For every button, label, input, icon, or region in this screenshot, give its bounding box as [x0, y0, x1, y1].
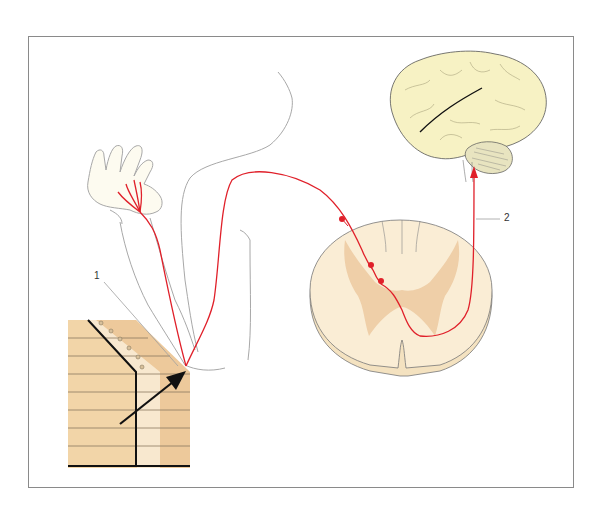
surface-block [68, 320, 190, 468]
brain [390, 51, 546, 182]
body-outline [120, 72, 292, 370]
hand-outline [88, 145, 162, 224]
illustration [0, 0, 606, 518]
spinal-cord [310, 220, 492, 376]
label-2: 2 [504, 212, 510, 223]
label-1: 1 [94, 270, 100, 281]
